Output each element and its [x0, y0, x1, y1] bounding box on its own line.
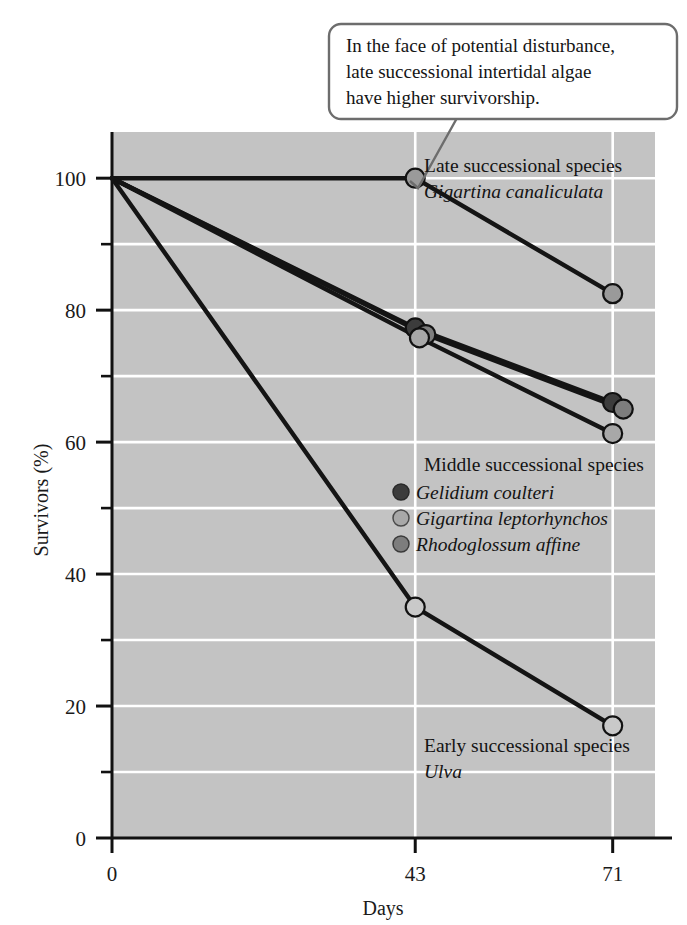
data-point-marker [410, 328, 429, 347]
early-successional-heading: Early successional species [424, 735, 630, 756]
callout-line-3: have higher survivorship. [346, 87, 540, 108]
data-point-marker [603, 716, 622, 735]
y-tick-label: 80 [65, 299, 86, 323]
figure-container: 020406080100 04371 Survivors (%) Days In… [0, 0, 687, 925]
y-tick-label: 40 [65, 563, 86, 587]
middle-successional-heading: Middle successional species [424, 454, 644, 475]
x-axis-tick-labels: 04371 [107, 862, 623, 886]
x-axis-ticks [112, 838, 613, 853]
x-tick-label: 43 [405, 862, 426, 886]
x-tick-label: 0 [107, 862, 118, 886]
legend-marker-gelidium-coulteri [393, 484, 409, 500]
y-tick-label: 60 [65, 431, 86, 455]
y-tick-label: 0 [76, 827, 87, 851]
legend-label-gelidium-coulteri: Gelidium coulteri [416, 482, 554, 503]
legend-marker-rhodoglossum-affine [393, 536, 409, 552]
late-successional-heading: Late successional species [424, 155, 622, 176]
early-successional-species: Ulva [424, 761, 462, 782]
data-point-marker [614, 400, 633, 419]
legend-label-rhodoglossum-affine: Rhodoglossum affine [415, 534, 580, 555]
y-axis-tick-labels: 020406080100 [55, 167, 87, 851]
legend-label-gigartina-leptorhynchos: Gigartina leptorhynchos [416, 508, 608, 529]
callout-line-2: late successional intertidal algae [346, 61, 591, 82]
x-axis-title: Days [362, 897, 403, 920]
y-tick-label: 100 [55, 167, 87, 191]
plot-area-background [112, 132, 655, 838]
late-successional-species: Gigartina canaliculata [424, 181, 604, 202]
callout-line-1: In the face of potential disturbance, [346, 35, 615, 56]
survivorship-line-chart: 020406080100 04371 Survivors (%) Days In… [0, 0, 687, 925]
legend-marker-gigartina-leptorhynchos [393, 510, 409, 526]
x-tick-label: 71 [602, 862, 623, 886]
data-point-marker [406, 598, 425, 617]
data-point-marker [603, 284, 622, 303]
y-axis-ticks [96, 178, 112, 838]
data-point-marker [603, 424, 622, 443]
y-tick-label: 20 [65, 695, 86, 719]
y-axis-title: Survivors (%) [30, 444, 53, 557]
